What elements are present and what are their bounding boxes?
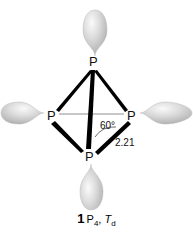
- bond-top-right: [94, 70, 128, 112]
- structure-drawing: [0, 0, 193, 238]
- bond-bottom-left: [51, 121, 84, 153]
- bond-angle-label: 60°: [100, 121, 115, 131]
- atom-label-p-right: P: [127, 109, 136, 122]
- atom-label-p-left: P: [47, 109, 56, 122]
- lone-pair-lobe-bottom: [80, 164, 103, 210]
- lone-pair-lobe-left: [1, 102, 44, 124]
- bond-length-label: 2.21: [115, 138, 134, 148]
- bond-top-bottom: [86, 70, 95, 149]
- bond-top-left: [56, 70, 93, 112]
- atom-label-p-bottom: P: [85, 150, 94, 163]
- figure-p4-structure: P P P P 60° 2.21 1P4, Td: [0, 0, 193, 238]
- caption-number: 1: [77, 211, 84, 226]
- lone-pair-lobe-top: [83, 10, 107, 56]
- figure-caption: 1P4, Td: [0, 212, 193, 229]
- caption-formula: P: [87, 213, 94, 225]
- atom-label-p-top: P: [89, 55, 98, 68]
- caption-symmetry-subscript: d: [111, 219, 115, 228]
- lone-pair-lobe-right: [140, 102, 192, 124]
